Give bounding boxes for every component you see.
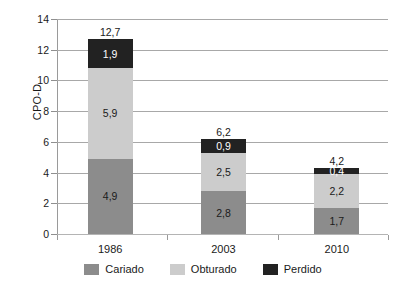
bar-group: 1,72,20,44,2	[314, 19, 359, 234]
legend-swatch-icon	[170, 264, 185, 275]
plot-area: 4,95,91,912,72,82,50,96,21,72,20,44,2	[57, 19, 388, 234]
x-tick-mark	[388, 235, 389, 240]
y-tick-label: 2	[25, 198, 49, 208]
bar-total-label: 6,2	[201, 127, 246, 137]
bar-total-label: 12,7	[88, 27, 133, 37]
bar-group: 4,95,91,912,7	[88, 19, 133, 234]
bar-segment-value-label: 1,7	[330, 216, 345, 226]
chart-legend: CariadoObturadoPerdido	[0, 264, 406, 275]
y-tick-label: 0	[25, 229, 49, 239]
stacked-bar-chart: CPO-D 02468101214 4,95,91,912,72,82,50,9…	[0, 0, 406, 294]
bar-segment-value-label: 2,5	[216, 167, 231, 177]
x-tick-mark	[167, 235, 168, 240]
y-tick-label: 14	[25, 14, 49, 24]
x-tick-label: 2010	[292, 243, 382, 255]
bar-segment[interactable]: 1,9	[88, 39, 133, 68]
legend-swatch-icon	[263, 264, 278, 275]
legend-swatch-icon	[84, 264, 99, 275]
y-tick-label: 4	[25, 168, 49, 178]
bar-segment-value-label: 0,4	[330, 166, 345, 176]
legend-item-perdido[interactable]: Perdido	[263, 264, 322, 275]
bar-segment-value-label: 2,2	[330, 186, 345, 196]
legend-item-cariado[interactable]: Cariado	[84, 264, 144, 275]
y-tick-label: 6	[25, 137, 49, 147]
y-tick-label: 10	[25, 75, 49, 85]
y-tick-label: 8	[25, 106, 49, 116]
x-tick-label: 2003	[179, 243, 269, 255]
bar-segment[interactable]: 2,2	[314, 174, 359, 208]
bar-total-label: 4,2	[314, 156, 359, 166]
legend-label: Obturado	[191, 264, 237, 275]
bar-segment[interactable]: 4,9	[88, 159, 133, 234]
bar-segment-value-label: 1,9	[103, 49, 118, 59]
bar-segment[interactable]: 2,5	[201, 153, 246, 191]
bar-segment[interactable]: 0,9	[201, 139, 246, 153]
bar-segment[interactable]: 5,9	[88, 68, 133, 159]
bar-segment[interactable]: 2,8	[201, 191, 246, 234]
legend-label: Perdido	[284, 264, 322, 275]
bar-segment[interactable]: 1,7	[314, 208, 359, 234]
bar-segment-value-label: 4,9	[103, 191, 118, 201]
bar-group: 2,82,50,96,2	[201, 19, 246, 234]
x-tick-mark	[57, 235, 58, 240]
bar-segment[interactable]: 0,4	[314, 168, 359, 174]
bar-segment-value-label: 0,9	[216, 141, 231, 151]
gridline	[57, 234, 388, 235]
legend-label: Cariado	[105, 264, 144, 275]
bar-segment-value-label: 5,9	[103, 108, 118, 118]
bar-segment-value-label: 2,8	[216, 208, 231, 218]
x-tick-label: 1986	[65, 243, 155, 255]
x-tick-mark	[278, 235, 279, 240]
y-tick-label: 12	[25, 45, 49, 55]
legend-item-obturado[interactable]: Obturado	[170, 264, 237, 275]
